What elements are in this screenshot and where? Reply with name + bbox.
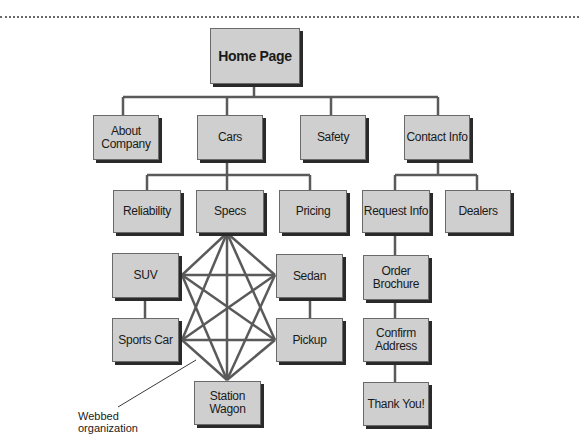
- node-sedan: Sedan: [276, 254, 343, 298]
- node-order-brochure: Order Brochure: [363, 255, 429, 300]
- node-sports-car: Sports Car: [112, 318, 179, 362]
- node-pricing: Pricing: [279, 190, 347, 233]
- node-request-info: Request Info: [362, 190, 430, 233]
- node-cars: Cars: [197, 115, 263, 160]
- node-station-wagon: Station Wagon: [194, 381, 261, 425]
- webbed-organization-label: Webbed organization: [78, 410, 138, 434]
- node-about-company: About Company: [93, 115, 159, 160]
- node-pickup: Pickup: [276, 318, 343, 362]
- node-contact-info: Contact Info: [404, 115, 470, 160]
- node-reliability: Reliability: [113, 190, 181, 233]
- node-dealers: Dealers: [445, 190, 511, 233]
- node-specs: Specs: [196, 190, 264, 233]
- node-safety: Safety: [300, 115, 366, 160]
- node-thank-you: Thank You!: [363, 382, 429, 426]
- node-home-page: Home Page: [210, 28, 300, 84]
- node-confirm-address: Confirm Address: [363, 318, 429, 362]
- node-suv: SUV: [112, 253, 179, 298]
